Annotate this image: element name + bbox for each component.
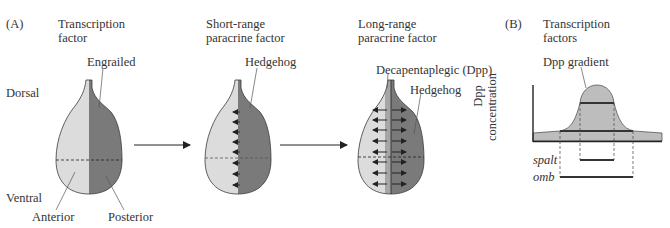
- panel-b-title-line2: factors: [543, 31, 577, 45]
- dorsal-label: Dorsal: [6, 86, 39, 100]
- engrailed-label: Engrailed: [87, 55, 136, 69]
- hedgehog-label-stage2: Hedgehog: [245, 55, 296, 69]
- omb-label: omb: [533, 170, 555, 184]
- panel-b-title-line1: Transcription: [543, 17, 610, 31]
- wing-disc-engrailed: [50, 68, 129, 210]
- panel-b-label: (B): [505, 17, 522, 31]
- y-axis-label-line2: concentration: [485, 72, 499, 142]
- stage3-title-line1: Long-range: [358, 17, 416, 31]
- hedgehog-label-stage3: Hedgehog: [410, 83, 461, 97]
- panel-a-label: (A): [6, 17, 23, 31]
- stage1-title-line2: factor: [58, 31, 87, 45]
- spalt-label: spalt: [533, 153, 557, 167]
- wing-disc-hedgehog: [199, 68, 278, 200]
- stage2-title-line2: paracrine factor: [206, 31, 285, 45]
- anterior-label: Anterior: [32, 210, 74, 224]
- y-axis-label-line1: Dpp: [471, 66, 485, 126]
- stage1-title-line1: Transcription: [58, 17, 125, 31]
- stage3-title-line2: paracrine factor: [358, 31, 437, 45]
- ventral-label: Ventral: [6, 191, 42, 205]
- posterior-label: Posterior: [108, 210, 153, 224]
- dpp-gradient-label: Dpp gradient: [543, 55, 609, 69]
- stage2-title-line1: Short-range: [206, 17, 265, 31]
